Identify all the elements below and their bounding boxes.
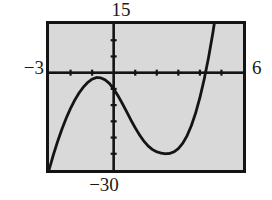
graph-screenshot: 15 −3 6 −30 <box>0 0 272 200</box>
x-min-label: −3 <box>4 58 44 77</box>
x-max-label: 6 <box>252 58 270 77</box>
y-min-label: −30 <box>80 175 128 194</box>
y-max-label: 15 <box>101 0 141 19</box>
graph-canvas <box>49 24 243 170</box>
plot-frame <box>46 21 246 173</box>
